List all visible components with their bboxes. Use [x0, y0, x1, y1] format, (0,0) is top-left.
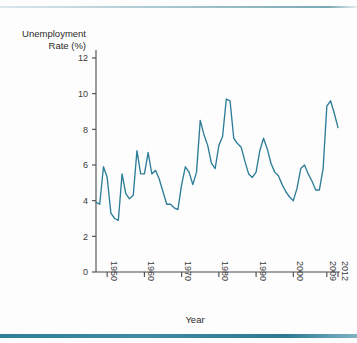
y-tick-label: 6 [83, 160, 88, 170]
x-tick-label: 2012 [340, 261, 350, 281]
bottom-divider-rule [0, 334, 357, 338]
y-tick-label: 10 [78, 89, 88, 99]
unemployment-rate-series-line [96, 99, 338, 220]
unemployment-rate-line-chart: Unemployment Rate (%) 024681012 19501960… [0, 0, 357, 343]
y-tick-label: 4 [83, 196, 88, 206]
y-tick-label: 12 [78, 53, 88, 63]
x-tick-label: 1980 [220, 261, 230, 281]
x-tick-label: 1960 [146, 261, 156, 281]
x-tick-label: 2000 [295, 261, 305, 281]
y-axis-title-line1: Unemployment [22, 28, 86, 39]
x-axis-ticks: 19501960197019801990200020092012 [107, 261, 349, 281]
y-axis-ticks: 024681012 [78, 53, 96, 277]
x-tick-label: 1990 [258, 261, 268, 281]
y-tick-label: 0 [83, 267, 88, 277]
x-tick-label: 1950 [109, 261, 119, 281]
figure-container: Unemployment Rate (%) 024681012 19501960… [0, 0, 357, 343]
y-tick-label: 8 [83, 125, 88, 135]
x-axis-title: Year [185, 314, 204, 325]
axes-group [96, 50, 340, 272]
x-tick-label: 2009 [328, 261, 338, 281]
y-tick-label: 2 [83, 232, 88, 242]
x-tick-label: 1970 [183, 261, 193, 281]
y-axis-title-line2: Rate (%) [49, 40, 86, 51]
